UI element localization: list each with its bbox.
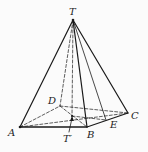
label-B: B	[86, 129, 94, 140]
label-D: D	[47, 95, 56, 106]
vertex-Tp	[71, 115, 73, 117]
label-T: T	[69, 6, 77, 17]
vertex-A	[19, 126, 22, 129]
edge-DC	[60, 106, 128, 113]
edge-TB	[73, 20, 87, 127]
edge-TE	[73, 20, 106, 120]
label-C: C	[131, 110, 139, 121]
pyramid-figure: T A B C D E T′	[0, 0, 148, 152]
vertex-T	[72, 19, 75, 22]
edge-TA	[20, 20, 73, 127]
label-A: A	[7, 127, 15, 138]
edge-AD	[20, 106, 60, 127]
altitude-TTp	[72, 20, 73, 116]
label-E: E	[109, 119, 118, 130]
label-Tprime: T′	[63, 133, 73, 144]
pyramid-diagram: T A B C D E T′	[0, 0, 148, 152]
edge-TC	[73, 20, 128, 113]
edge-BC	[87, 113, 128, 127]
